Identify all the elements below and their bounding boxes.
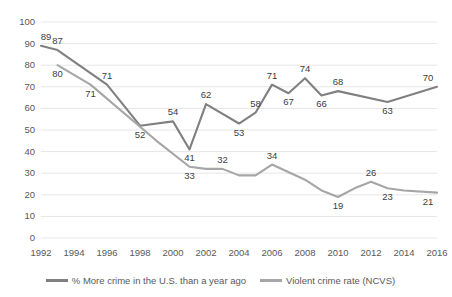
x-axis-tick-label: 1998 — [123, 248, 157, 258]
data-point-label: 21 — [417, 197, 439, 207]
x-axis-tick-label: 2014 — [387, 248, 421, 258]
data-point-label: 54 — [162, 107, 184, 117]
y-axis-tick-label: 60 — [11, 103, 35, 113]
y-axis-tick-label: 40 — [11, 147, 35, 157]
data-point-label: 23 — [377, 192, 399, 202]
x-axis-tick-label: 1992 — [24, 248, 58, 258]
y-axis-tick-label: 70 — [11, 82, 35, 92]
x-axis-tick-label: 2010 — [321, 248, 355, 258]
data-point-label: 19 — [327, 201, 349, 211]
data-point-label: 58 — [245, 99, 267, 109]
x-axis-tick-label: 2016 — [420, 248, 452, 258]
data-point-label: 71 — [261, 71, 283, 81]
data-point-label: 52 — [129, 130, 151, 140]
data-point-label: 68 — [327, 77, 349, 87]
data-point-label: 80 — [47, 69, 69, 79]
data-point-label: 87 — [47, 36, 69, 46]
data-point-label: 34 — [261, 151, 283, 161]
y-axis-tick-label: 100 — [11, 17, 35, 27]
y-axis-tick-label: 30 — [11, 168, 35, 178]
y-axis-tick-label: 90 — [11, 39, 35, 49]
data-point-label: 32 — [212, 155, 234, 165]
legend-label: Violent crime rate (NCVS) — [286, 275, 395, 286]
data-point-label: 62 — [195, 90, 217, 100]
data-point-label: 70 — [417, 73, 439, 83]
x-axis-tick-label: 2004 — [222, 248, 256, 258]
legend-color-swatch — [260, 279, 282, 281]
x-axis-tick-label: 2012 — [354, 248, 388, 258]
y-axis-tick-label: 20 — [11, 190, 35, 200]
data-point-label: 53 — [228, 128, 250, 138]
x-axis-tick-label: 2002 — [189, 248, 223, 258]
data-point-label: 71 — [80, 89, 102, 99]
data-point-label: 66 — [311, 99, 333, 109]
y-axis-tick-label: 10 — [11, 211, 35, 221]
y-axis-tick-label: 50 — [11, 125, 35, 135]
legend-item-0[interactable]: % More crime in the U.S. than a year ago — [46, 275, 246, 286]
x-axis-tick-label: 1996 — [90, 248, 124, 258]
data-point-label: 33 — [179, 171, 201, 181]
x-axis-tick-label: 1994 — [57, 248, 91, 258]
x-axis-tick-label: 2000 — [156, 248, 190, 258]
data-point-label: 63 — [377, 106, 399, 116]
data-point-label: 71 — [96, 71, 118, 81]
data-point-label: 67 — [278, 97, 300, 107]
legend-item-1[interactable]: Violent crime rate (NCVS) — [260, 275, 395, 286]
y-axis-tick-label: 80 — [11, 60, 35, 70]
chart-legend: % More crime in the U.S. than a year ago… — [0, 275, 441, 286]
x-axis-tick-label: 2006 — [255, 248, 289, 258]
y-axis-tick-label: 0 — [11, 233, 35, 243]
data-point-label: 26 — [360, 168, 382, 178]
legend-color-swatch — [46, 279, 68, 281]
legend-label: % More crime in the U.S. than a year ago — [72, 275, 246, 286]
data-point-label: 74 — [294, 64, 316, 74]
data-point-label: 41 — [179, 153, 201, 163]
x-axis-tick-label: 2008 — [288, 248, 322, 258]
